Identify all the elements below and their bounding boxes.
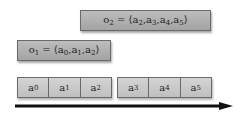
cell-a1: a1 xyxy=(48,77,80,98)
cell-a5: a5 xyxy=(180,77,212,98)
o2-label: o2 = ⟨a2,a3,a4,a5⟩ xyxy=(103,14,187,27)
o1-label: o1 = ⟨a0,a1,a2⟩ xyxy=(29,44,100,57)
cell-a3: a3 xyxy=(117,77,149,98)
cell-a4: a4 xyxy=(148,77,180,98)
sequence-group-1: a0 a1 a2 xyxy=(17,77,112,98)
cell-a2: a2 xyxy=(80,77,112,98)
time-arrow-icon xyxy=(15,102,233,110)
observation-o1-box: o1 = ⟨a0,a1,a2⟩ xyxy=(17,40,111,61)
observation-o2-box: o2 = ⟨a2,a3,a4,a5⟩ xyxy=(80,10,211,31)
sequence-group-2: a3 a4 a5 xyxy=(117,77,212,98)
cell-a0: a0 xyxy=(17,77,49,98)
